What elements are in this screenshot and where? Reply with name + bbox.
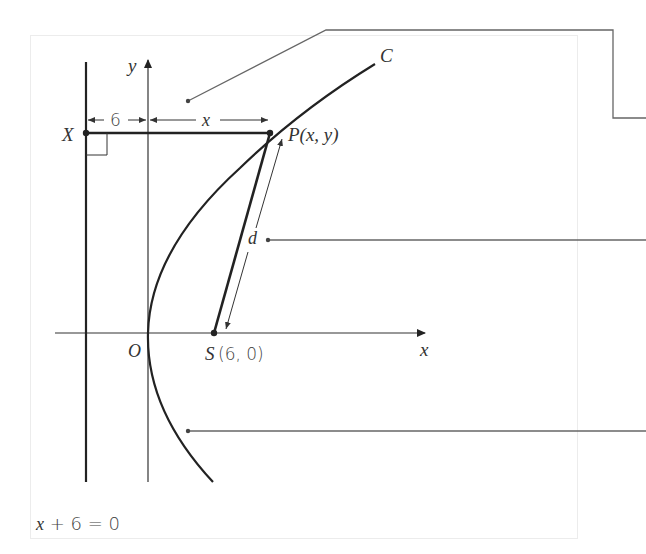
distance-d-arrow-down xyxy=(226,252,248,329)
origin-label: O xyxy=(128,341,141,361)
point-S-dot xyxy=(211,330,217,336)
point-X-dot xyxy=(83,130,89,136)
right-angle-marker xyxy=(86,133,107,155)
callout-dot-top xyxy=(186,99,190,103)
directrix-eq-rest: + 6 = 0 xyxy=(44,513,120,534)
x-axis-label: x xyxy=(419,339,429,360)
point-X-label: X xyxy=(61,124,75,145)
segment-PS xyxy=(214,133,270,333)
callout-dot-bottom xyxy=(186,429,190,433)
curve-label-C: C xyxy=(380,45,393,66)
dim-x-label: x xyxy=(201,110,210,130)
point-P-label: P(x, y) xyxy=(287,124,339,146)
directrix-eq-var: x xyxy=(35,514,44,534)
y-axis-label: y xyxy=(126,55,137,76)
focus-S-coords: (6, 0) xyxy=(218,344,264,364)
callout-dot-d xyxy=(266,238,270,242)
distance-d-arrow-up xyxy=(256,139,282,228)
focus-S-letter: S xyxy=(205,343,215,364)
distance-d-label: d xyxy=(248,228,258,248)
dim-six-label: 6 xyxy=(110,110,121,130)
directrix-equation: x + 6 = 0 xyxy=(35,513,120,534)
callout-line-top xyxy=(188,30,646,118)
parabola-curve-C xyxy=(148,64,375,482)
point-P-dot xyxy=(267,130,273,136)
parabola-diagram: y x O C P(x, y) X S (6, 0) d 6 x x + 6 =… xyxy=(0,0,646,554)
